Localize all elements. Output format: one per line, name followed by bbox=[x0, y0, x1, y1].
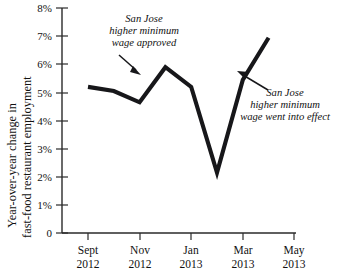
annotation-wage-into-effect: San Jose higher minimum wage went into e… bbox=[237, 71, 331, 122]
x-tick-label-year-3: 2013 bbox=[232, 258, 255, 270]
y-tick-label-3: 3% bbox=[37, 143, 52, 155]
annotation-wage-into-effect-line3: wage went into effect bbox=[240, 111, 331, 122]
x-tick-label-year-2: 2013 bbox=[180, 258, 203, 270]
y-tick-label-2: 2% bbox=[37, 171, 52, 183]
x-tick-label-month-2: Jan bbox=[183, 244, 199, 256]
annotation-wage-approved-line2: higher minimum bbox=[109, 25, 179, 36]
y-axis-label-line2: fast-food restaurant employment bbox=[20, 76, 34, 238]
y-tick-label-0: 0 bbox=[47, 227, 53, 239]
y-tick-label-7: 7% bbox=[37, 30, 52, 42]
y-tick-label-8: 8% bbox=[37, 2, 52, 14]
y-tick-label-4: 4% bbox=[37, 115, 52, 127]
x-tick-label-month-1: Nov bbox=[130, 244, 150, 256]
x-tick-label-month-3: Mar bbox=[233, 244, 252, 256]
annotation-wage-into-effect-line1: San Jose bbox=[266, 87, 304, 98]
data-series-line bbox=[88, 38, 269, 173]
annotation-wage-approved-arrow-head bbox=[130, 66, 141, 75]
chart-container: Year-over-year change in fast-food resta… bbox=[0, 0, 338, 273]
x-tick-label-year-0: 2012 bbox=[77, 258, 100, 270]
x-tick-label-month-4: May bbox=[283, 244, 304, 257]
x-axis-ticks: Sept 2012 Nov 2012 Jan 2013 Mar 2013 May… bbox=[77, 233, 306, 270]
y-tick-label-5: 5% bbox=[37, 87, 52, 99]
x-tick-label-month-0: Sept bbox=[78, 244, 99, 257]
x-tick-label-year-1: 2012 bbox=[129, 258, 152, 270]
y-tick-label-1: 1% bbox=[37, 199, 52, 211]
annotation-wage-into-effect-arrow-line bbox=[243, 75, 268, 90]
annotation-wage-approved: San Jose higher minimum wage approved bbox=[109, 13, 179, 75]
y-axis-label-line1: Year-over-year change in bbox=[5, 103, 19, 228]
annotation-wage-approved-line1: San Jose bbox=[125, 13, 163, 24]
y-tick-label-6: 6% bbox=[37, 58, 52, 70]
annotation-wage-into-effect-line2: higher minimum bbox=[250, 99, 320, 110]
y-axis-ticks: 8% 7% 6% 5% 4% 3% 2% 1% 0 bbox=[37, 2, 68, 239]
y-axis-label: Year-over-year change in fast-food resta… bbox=[5, 76, 34, 238]
annotation-wage-approved-line3: wage approved bbox=[112, 37, 177, 48]
line-chart: Year-over-year change in fast-food resta… bbox=[0, 0, 338, 273]
x-tick-label-year-4: 2013 bbox=[283, 258, 306, 270]
